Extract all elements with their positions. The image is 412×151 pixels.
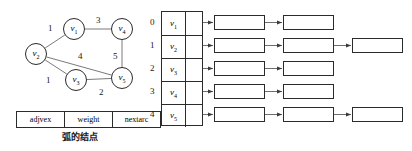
graph-vertex-label: v3: [73, 74, 80, 86]
arc-node: [283, 84, 334, 99]
vertex-head-label-cell: v2: [162, 36, 186, 58]
graph-vertex-v2: v2: [25, 43, 47, 65]
arc-node: [214, 61, 265, 76]
vertex-head-pointer-cell: [186, 12, 202, 35]
graph-vertex-v4: v4: [111, 18, 133, 40]
graph-vertex-label: v2: [33, 48, 40, 60]
vertex-head-row: v3: [162, 58, 202, 81]
edge-weight-label: 2: [99, 88, 104, 97]
graph-vertex-label: v5: [119, 72, 126, 84]
arc-node: [283, 38, 334, 53]
legend-table: adjvexweightnextarc: [16, 111, 161, 128]
graph-vertex-label: v1: [71, 23, 78, 35]
vertex-head-pointer-cell: [186, 36, 202, 58]
edge-weight-label: 1: [46, 76, 51, 85]
vertex-index-4: 4: [150, 110, 155, 119]
arc-node: [283, 61, 334, 76]
vertex-head-label-cell: v1: [162, 12, 186, 35]
graph-vertex-v3: v3: [65, 69, 87, 91]
arc-node: [283, 107, 334, 122]
vertex-head-pointer-cell: [186, 59, 202, 81]
vertex-head-table: v1v2v3v4v5: [161, 11, 203, 126]
vertex-head-label-cell: v5: [162, 105, 186, 127]
vertex-head-pointer-cell: [186, 105, 202, 127]
graph-edge: [87, 78, 111, 79]
legend-field-adjvex: adjvex: [17, 112, 64, 127]
graph-vertex-label: v4: [119, 23, 126, 35]
vertex-index-3: 3: [150, 87, 155, 96]
figure-svg: [0, 0, 412, 151]
arc-node: [214, 84, 265, 99]
legend-caption: 弧的结点: [62, 133, 98, 142]
vertex-head-label: v5: [170, 110, 177, 122]
figure-root: v1v2v3v4v5 135412 adjvexweightnextarc 弧的…: [0, 0, 412, 151]
vertex-head-label-cell: v4: [162, 82, 186, 104]
vertex-index-2: 2: [150, 64, 155, 73]
arc-node: [214, 107, 265, 122]
vertex-head-label-cell: v3: [162, 59, 186, 81]
arc-node: [283, 15, 334, 30]
arc-node: [214, 38, 265, 53]
edge-weight-label: 4: [78, 52, 83, 61]
vertex-head-label: v3: [170, 64, 177, 76]
edge-weight-label: 5: [113, 52, 118, 61]
graph-vertex-v5: v5: [111, 67, 133, 89]
vertex-head-pointer-cell: [186, 82, 202, 104]
vertex-head-label: v4: [170, 87, 177, 99]
vertex-head-label: v2: [170, 41, 177, 53]
arc-node: [214, 15, 265, 30]
edge-weight-label: 1: [48, 24, 53, 33]
vertex-index-0: 0: [150, 18, 155, 27]
vertex-head-row: v1: [162, 12, 202, 35]
legend-field-weight: weight: [64, 112, 112, 127]
arc-node: [352, 38, 403, 53]
arc-node: [352, 107, 403, 122]
graph-vertex-v1: v1: [63, 18, 85, 40]
edge-weight-label: 3: [96, 16, 101, 25]
vertex-head-row: v4: [162, 81, 202, 104]
vertex-head-row: v5: [162, 104, 202, 127]
graph-edge: [45, 35, 65, 48]
vertex-head-label: v1: [170, 18, 177, 30]
vertex-head-row: v2: [162, 35, 202, 58]
vertex-index-1: 1: [150, 41, 155, 50]
